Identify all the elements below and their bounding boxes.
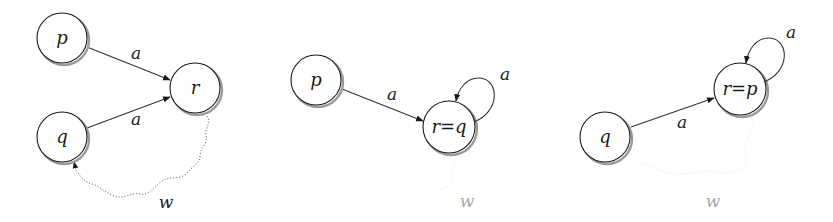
- node-p: p: [291, 55, 343, 107]
- panel-3: q r=p a a w: [580, 22, 796, 211]
- edge-p-to-rq: [342, 89, 423, 121]
- self-loop-rp-label: a: [786, 22, 796, 42]
- automaton-diagram: p q r a a w p r=q a a w: [0, 0, 833, 222]
- edge-q-to-r: [87, 97, 170, 128]
- edge-p-to-r: [87, 47, 170, 80]
- node-q: q: [580, 112, 632, 164]
- node-r-label: r: [191, 77, 201, 98]
- edge-q-to-rp: [631, 98, 714, 127]
- node-q: q: [37, 112, 89, 164]
- node-q-label: q: [599, 126, 611, 147]
- self-loop-rq-label: a: [500, 64, 510, 84]
- faint-path-w-label: w: [460, 191, 475, 211]
- edge-q-r-label: a: [131, 109, 141, 129]
- edge-p-rq-label: a: [387, 84, 397, 104]
- node-q-label: q: [56, 126, 68, 147]
- faint-path-w: [636, 116, 753, 174]
- panel-2: p r=q a a w: [291, 55, 510, 211]
- faint-path-w-label: w: [706, 191, 721, 211]
- node-p-label: p: [310, 69, 322, 90]
- node-p: p: [37, 13, 89, 65]
- panel-1: p q r a a w: [37, 13, 222, 212]
- node-rq: r=q: [423, 101, 477, 155]
- faint-path-w: [440, 152, 456, 190]
- node-r: r: [170, 63, 222, 115]
- path-w-label: w: [159, 192, 174, 212]
- node-rp-label: r=p: [722, 78, 758, 99]
- node-rq-label: r=q: [431, 116, 466, 137]
- node-p-label: p: [56, 27, 68, 48]
- path-w-r-to-q: [74, 116, 209, 197]
- node-rp: r=p: [714, 63, 768, 117]
- edge-p-r-label: a: [131, 43, 141, 63]
- edge-q-rp-label: a: [677, 112, 687, 132]
